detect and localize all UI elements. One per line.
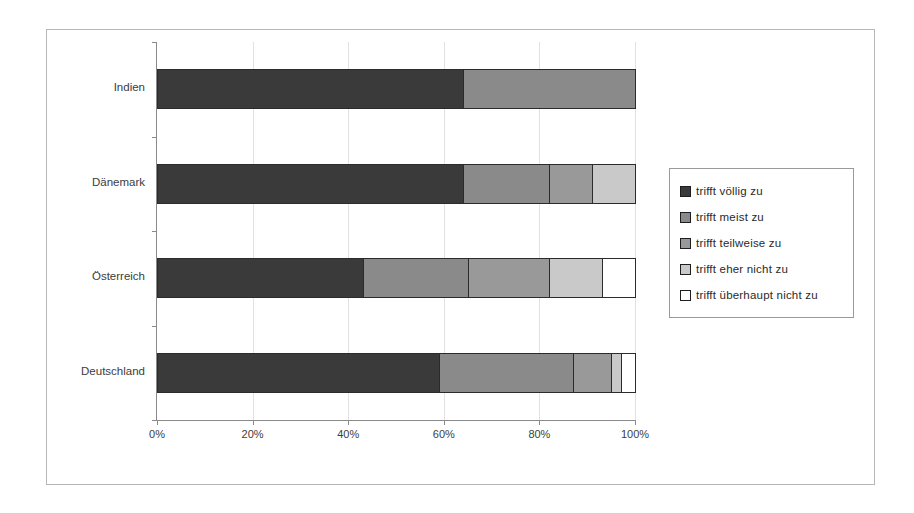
legend-item-label: trifft völlig zu	[696, 185, 763, 197]
legend-item[interactable]: trifft meist zu	[680, 204, 845, 230]
legend-item-label: trifft meist zu	[696, 211, 764, 223]
legend-swatch-icon	[680, 264, 691, 275]
y-axis-tick	[152, 42, 157, 43]
chart-figure: 0%20%40%60%80%100% IndienDänemarkÖsterre…	[46, 29, 875, 485]
legend-item[interactable]: trifft teilweise zu	[680, 230, 845, 256]
bar-segment	[602, 258, 636, 298]
legend-item[interactable]: trifft überhaupt nicht zu	[680, 282, 845, 308]
y-axis-tick	[152, 420, 157, 421]
legend-swatch-icon	[680, 212, 691, 223]
bar-segment	[592, 164, 636, 204]
bar-segment	[549, 258, 603, 298]
x-axis-tick	[157, 420, 158, 425]
y-axis-tick-label: Indien	[114, 81, 145, 93]
y-axis-tick	[152, 231, 157, 232]
x-axis-tick-label: 60%	[433, 428, 455, 440]
bar-segment	[621, 353, 636, 393]
x-axis-tick-label: 20%	[242, 428, 264, 440]
bar-segment	[468, 258, 550, 298]
bar-segment	[463, 69, 636, 109]
legend-swatch-icon	[680, 186, 691, 197]
bar-row	[157, 353, 636, 393]
x-axis-tick	[348, 420, 349, 425]
x-axis-tick-label: 40%	[337, 428, 359, 440]
legend-item-label: trifft teilweise zu	[696, 237, 781, 249]
bar-row	[157, 69, 636, 109]
y-axis-tick-label: Deutschland	[81, 365, 145, 377]
x-axis-tick-label: 0%	[149, 428, 165, 440]
legend-item-label: trifft eher nicht zu	[696, 263, 788, 275]
legend-swatch-icon	[680, 238, 691, 249]
bar-segment	[439, 353, 574, 393]
legend-swatch-icon	[680, 290, 691, 301]
x-axis-tick	[635, 420, 636, 425]
legend-item-label: trifft überhaupt nicht zu	[696, 289, 818, 301]
x-axis-tick	[539, 420, 540, 425]
bar-row	[157, 258, 636, 298]
x-axis-tick-label: 80%	[528, 428, 550, 440]
bar-row	[157, 164, 636, 204]
y-axis-tick	[152, 137, 157, 138]
bar-segment	[463, 164, 550, 204]
bar-segment	[157, 353, 440, 393]
y-axis-tick	[152, 326, 157, 327]
plot-area: 0%20%40%60%80%100% IndienDänemarkÖsterre…	[157, 42, 635, 420]
bar-segment	[549, 164, 593, 204]
chart-legend: trifft völlig zutrifft meist zutrifft te…	[669, 168, 854, 318]
bar-segment	[157, 69, 464, 109]
legend-item[interactable]: trifft eher nicht zu	[680, 256, 845, 282]
x-axis-tick-label: 100%	[621, 428, 649, 440]
x-axis-tick	[444, 420, 445, 425]
x-axis-line	[156, 420, 636, 421]
bar-segment	[157, 258, 364, 298]
y-axis-tick-label: Österreich	[92, 270, 145, 282]
bar-segment	[157, 164, 464, 204]
bar-segment	[363, 258, 469, 298]
bar-segment	[573, 353, 612, 393]
legend-item[interactable]: trifft völlig zu	[680, 178, 845, 204]
x-axis-tick	[253, 420, 254, 425]
y-axis-tick-label: Dänemark	[92, 176, 145, 188]
